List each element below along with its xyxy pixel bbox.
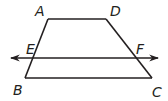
trapezoid-diagram: A D E F B C <box>0 0 168 101</box>
label-f: F <box>136 41 145 57</box>
label-a: A <box>34 3 45 19</box>
segment-dc <box>106 19 152 78</box>
label-b: B <box>13 82 23 98</box>
label-e: E <box>26 41 35 57</box>
label-c: C <box>152 84 162 100</box>
label-d: D <box>110 3 121 19</box>
